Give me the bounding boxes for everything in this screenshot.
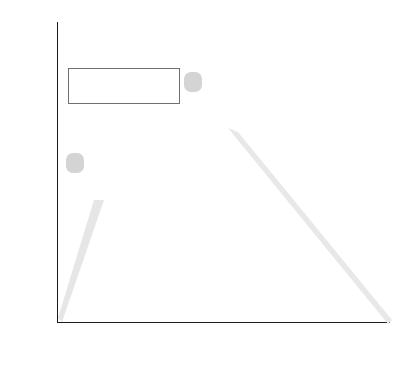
legend-swatch-discount-retailers [75,76,88,85]
x-axis-line [57,322,390,323]
annotation-1981 [66,153,84,173]
y-axis-line [57,22,58,322]
legend-item-department-stores [75,87,173,96]
annotation-2007 [184,72,202,92]
chart-legend [68,68,180,104]
legend-swatch-department-stores [75,87,88,96]
x-axis-ticks [57,324,390,370]
plot-area [57,22,390,322]
chart-container [0,0,406,371]
legend-item-discount-retailers [75,76,173,85]
y-axis-ticks [0,0,53,371]
stacked-area-series [57,22,390,322]
